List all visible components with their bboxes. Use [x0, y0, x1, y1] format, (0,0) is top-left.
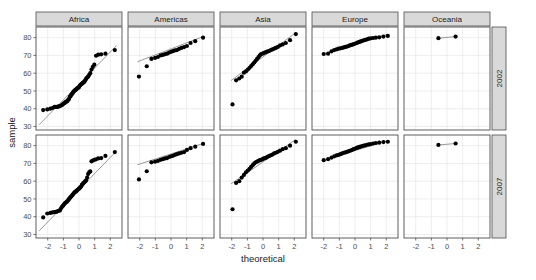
data-point [137, 74, 141, 78]
x-tick-label: 2 [200, 242, 204, 251]
y-axis-2007: 304050607080 [23, 141, 36, 239]
facet-strip-asia: Asia [220, 12, 306, 26]
qq-plot-facet-figure: AfricaAmericasAsiaEuropeOceania200230405… [0, 0, 536, 280]
data-point [113, 48, 117, 52]
x-tick-label: -1 [152, 242, 159, 251]
panel-americas-2002 [128, 27, 214, 130]
data-point [99, 156, 103, 160]
data-point [377, 141, 381, 145]
x-tick-label: 1 [461, 242, 465, 251]
x-tick-label: -2 [136, 242, 143, 251]
data-point [322, 52, 326, 56]
x-tick-label: 1 [185, 242, 189, 251]
x-tick-label: 0 [445, 242, 449, 251]
y-tick-label: 80 [23, 141, 31, 150]
x-tick-label: 2 [384, 242, 388, 251]
data-point [386, 34, 390, 38]
data-point [88, 169, 92, 173]
data-point [436, 36, 440, 40]
strip-label: Europe [342, 15, 368, 24]
data-point [454, 141, 458, 145]
x-tick-label: 2 [292, 242, 296, 251]
strip-label: Americas [154, 15, 187, 24]
facet-grid: AfricaAmericasAsiaEuropeOceania200230405… [6, 12, 507, 264]
data-point [103, 154, 107, 158]
data-point [103, 52, 107, 56]
data-point [240, 75, 244, 79]
data-point [377, 35, 381, 39]
panel-oceania-2002 [404, 27, 490, 130]
x-tick-label: -1 [428, 242, 435, 251]
data-point [149, 160, 153, 164]
data-point [230, 102, 234, 106]
data-point [386, 140, 390, 144]
plot-canvas: AfricaAmericasAsiaEuropeOceania200230405… [0, 0, 536, 280]
data-point [381, 140, 385, 144]
x-tick-label: -2 [44, 242, 51, 251]
data-point [41, 215, 45, 219]
facet-strip-oceania: Oceania [404, 12, 490, 26]
data-point [92, 63, 96, 67]
panel-americas-2007 [128, 135, 214, 238]
x-tick-label: -2 [228, 242, 235, 251]
data-point [193, 145, 197, 149]
panel-europe-2002 [312, 27, 398, 130]
x-tick-label: 0 [261, 242, 265, 251]
y-axis-title: sample [6, 117, 17, 148]
panel-africa-2007 [36, 135, 122, 238]
x-tick-label: 2 [476, 242, 480, 251]
data-point [113, 150, 117, 154]
facet-strip-year-2002: 2002 [492, 27, 506, 130]
facet-strip-year-2007: 2007 [492, 135, 506, 238]
data-point [99, 52, 103, 56]
data-point [288, 144, 292, 148]
data-point [381, 34, 385, 38]
x-axis-title: theoretical [241, 253, 285, 264]
x-tick-label: 0 [353, 242, 357, 251]
data-point [284, 146, 288, 150]
data-point [137, 177, 141, 181]
y-tick-label: 30 [23, 122, 31, 131]
panel-asia-2007 [220, 135, 306, 238]
facet-strip-americas: Americas [128, 12, 214, 26]
panel-asia-2002 [220, 27, 306, 130]
panel-europe-2007 [312, 135, 398, 238]
data-point [41, 108, 45, 112]
x-axis-asia: -2-1012 [228, 238, 296, 251]
strip-label: Asia [255, 15, 271, 24]
x-tick-label: -2 [320, 242, 327, 251]
strip-label: 2007 [495, 177, 504, 195]
x-tick-label: -1 [336, 242, 343, 251]
data-point [185, 148, 189, 152]
strip-label: Oceania [432, 15, 462, 24]
y-tick-label: 70 [23, 51, 31, 60]
data-point [185, 44, 189, 48]
x-tick-label: 0 [169, 242, 173, 251]
y-tick-label: 50 [23, 87, 31, 96]
data-point [294, 32, 298, 36]
x-tick-label: -1 [244, 242, 251, 251]
data-point [193, 39, 197, 43]
facet-strip-africa: Africa [36, 12, 122, 26]
data-point [294, 140, 298, 144]
data-point [201, 36, 205, 40]
data-point [454, 34, 458, 38]
strip-label: 2002 [495, 69, 504, 87]
y-tick-label: 30 [23, 230, 31, 239]
data-point [145, 169, 149, 173]
y-tick-label: 60 [23, 69, 31, 78]
panel-oceania-2007 [404, 135, 490, 238]
y-axis-2002: 304050607080 [23, 33, 36, 131]
data-point [237, 179, 241, 183]
x-tick-label: 0 [77, 242, 81, 251]
data-point [188, 41, 192, 45]
facet-strip-europe: Europe [312, 12, 398, 26]
x-axis-oceania: -2-1012 [412, 238, 480, 251]
data-point [284, 41, 288, 45]
strip-label: Africa [69, 15, 90, 24]
y-tick-label: 60 [23, 177, 31, 186]
y-tick-label: 70 [23, 159, 31, 168]
data-point [326, 52, 330, 56]
data-point [85, 176, 89, 180]
y-tick-label: 80 [23, 33, 31, 42]
